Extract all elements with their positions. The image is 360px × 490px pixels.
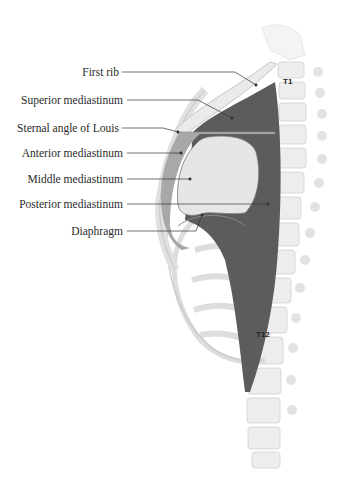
label-middle-mediastinum: Middle mediastinum [27, 172, 123, 186]
anatomy-illustration [0, 0, 360, 490]
vertebra-label-t1: T1 [283, 77, 292, 86]
label-posterior-mediastinum: Posterior mediastinum [19, 197, 123, 211]
mediastinum-figure: First rib Superior mediastinum Sternal a… [0, 0, 360, 490]
label-anterior-mediastinum: Anterior mediastinum [22, 146, 123, 160]
vertebra-label-t12: T12 [256, 330, 270, 339]
label-diaphragm: Diaphragm [71, 224, 123, 238]
label-sternal-angle: Sternal angle of Louis [17, 121, 119, 135]
label-superior-mediastinum: Superior mediastinum [21, 93, 123, 107]
middle-region [178, 136, 259, 215]
label-first-rib: First rib [82, 65, 119, 79]
